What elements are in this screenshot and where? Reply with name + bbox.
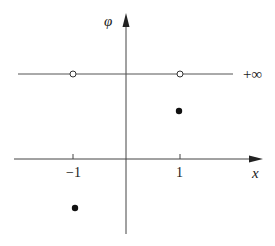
y-axis-label: φ [104, 13, 112, 29]
x-tick-label-neg1: −1 [66, 165, 81, 180]
filled-point-neg1 [72, 205, 78, 211]
open-point-1 [177, 71, 183, 77]
filled-point-1 [176, 108, 182, 114]
infinity-label: +∞ [243, 66, 262, 82]
y-axis: φ [104, 13, 130, 234]
x-axis-arrowhead-icon [249, 156, 263, 163]
x-tick-1: 1 [176, 154, 183, 180]
infinity-line: +∞ [18, 66, 262, 82]
function-graph: φ x −1 1 +∞ [0, 0, 275, 246]
open-point-neg1 [70, 71, 76, 77]
x-tick-label-1: 1 [176, 165, 183, 180]
x-axis-label: x [251, 165, 259, 181]
y-axis-arrowhead-icon [123, 13, 130, 27]
x-axis: x [14, 156, 263, 182]
x-tick-neg1: −1 [66, 154, 81, 180]
